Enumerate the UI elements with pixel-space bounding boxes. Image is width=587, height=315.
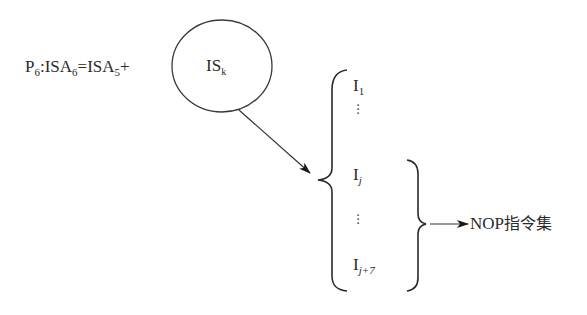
small-right-brace <box>407 160 426 291</box>
equation-isa-left: ISA <box>45 57 72 76</box>
instruction-item-j: Ij <box>353 166 362 183</box>
diagram-shapes <box>0 0 587 315</box>
nop-cjk-text: 指令集 <box>504 214 552 233</box>
large-left-brace <box>318 70 347 291</box>
ellipsis-lower: ··· <box>355 214 361 226</box>
ellipsis-upper: ··· <box>355 104 361 116</box>
equation-isa-right: ISA <box>87 57 114 76</box>
equation-label: P6:ISA6=ISA5+ <box>25 58 130 75</box>
circle-node-label-base: IS <box>206 56 221 75</box>
nop-set-label: NOP指令集 <box>470 215 552 232</box>
circle-node-label: ISk <box>206 57 226 74</box>
equation-equals: = <box>78 57 88 76</box>
equation-plus: + <box>120 57 130 76</box>
instruction-item-1: I1 <box>353 77 364 94</box>
diagonal-arrow <box>239 110 310 173</box>
nop-text: NOP <box>470 214 504 233</box>
diagram-canvas: P6:ISA6=ISA5+ ISk I1 ··· Ij ··· Ij+7 NOP… <box>0 0 587 315</box>
circle-node-label-sub: k <box>221 66 226 77</box>
instruction-item-j-plus-7: Ij+7 <box>353 256 375 273</box>
